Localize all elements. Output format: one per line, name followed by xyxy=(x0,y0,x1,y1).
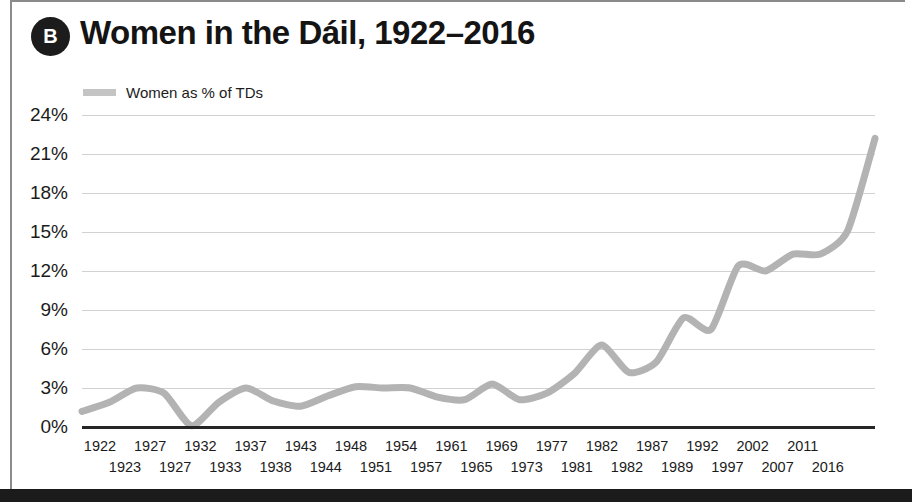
y-axis-tick-label: 3% xyxy=(41,377,68,399)
y-axis-labels: 24%21%18%15%12%9%6%3%0% xyxy=(0,115,68,427)
y-axis-tick-label: 0% xyxy=(41,416,68,438)
x-axis-tick-label: 1927 xyxy=(159,459,191,475)
x-axis-tick-label: 1922 xyxy=(84,438,116,454)
y-axis-tick-label: 18% xyxy=(30,182,68,204)
x-axis-tick-label: 1987 xyxy=(636,438,668,454)
x-axis-tick-label: 1961 xyxy=(435,438,467,454)
y-axis-tick-label: 21% xyxy=(30,143,68,165)
x-axis-tick-label: 1997 xyxy=(711,459,743,475)
x-axis-tick-label: 2011 xyxy=(787,438,818,454)
x-axis-tick-label: 1944 xyxy=(310,459,342,475)
x-axis-tick-label: 1948 xyxy=(335,438,367,454)
chart-figure: B Women in the Dáil, 1922–2016 Women as … xyxy=(0,0,912,502)
x-axis-tick-label: 1927 xyxy=(134,438,166,454)
x-axis-tick-label: 1923 xyxy=(109,459,141,475)
panel-badge: B xyxy=(31,17,70,56)
x-axis-tick-label: 2007 xyxy=(761,459,793,475)
y-axis-tick-label: 12% xyxy=(30,260,68,282)
x-axis-tick-label: 2016 xyxy=(812,459,844,475)
chart-title: Women in the Dáil, 1922–2016 xyxy=(80,14,535,52)
y-axis-tick-label: 24% xyxy=(30,104,68,126)
x-axis-tick-label: 1954 xyxy=(385,438,417,454)
legend: Women as % of TDs xyxy=(83,84,263,101)
x-axis-tick-label: 1969 xyxy=(485,438,517,454)
x-axis-tick-label: 1982 xyxy=(586,438,618,454)
x-axis-tick-label: 2002 xyxy=(736,438,768,454)
x-axis-tick-label: 1982 xyxy=(611,459,643,475)
frame-right-margin xyxy=(905,0,912,489)
x-axis-tick-label: 1938 xyxy=(259,459,291,475)
x-axis-tick-label: 1943 xyxy=(285,438,317,454)
y-axis-tick-label: 9% xyxy=(41,299,68,321)
y-axis-tick-label: 6% xyxy=(41,338,68,360)
series-line-women-pct xyxy=(82,115,875,427)
x-axis-line xyxy=(82,426,875,429)
x-axis-tick-label: 1951 xyxy=(360,459,392,475)
x-axis-tick-label: 1989 xyxy=(661,459,693,475)
x-axis-tick-label: 1937 xyxy=(234,438,266,454)
frame-top-border xyxy=(10,0,912,2)
x-axis-tick-label: 1977 xyxy=(536,438,568,454)
x-axis-tick-label: 1992 xyxy=(686,438,718,454)
frame-bottom-bar xyxy=(0,489,912,502)
x-axis-tick-label: 1957 xyxy=(410,459,442,475)
plot-area xyxy=(82,115,875,427)
y-axis-tick-label: 15% xyxy=(30,221,68,243)
x-axis-tick-label: 1932 xyxy=(184,438,216,454)
x-axis-tick-label: 1965 xyxy=(460,459,492,475)
legend-label: Women as % of TDs xyxy=(126,84,263,101)
x-axis-tick-label: 1973 xyxy=(510,459,542,475)
x-axis-tick-label: 1933 xyxy=(209,459,241,475)
x-axis-tick-label: 1981 xyxy=(561,459,593,475)
x-axis-labels: 1922192319271927193219331937193819431944… xyxy=(0,436,912,484)
legend-swatch-icon xyxy=(83,89,116,96)
